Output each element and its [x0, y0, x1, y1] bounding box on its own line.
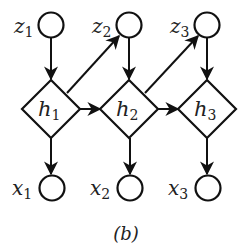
x-nodes: x1 x2 x3: [12, 176, 221, 203]
label-x1: x1: [12, 176, 32, 202]
label-x3: x3: [168, 176, 188, 202]
edge-h1-z2: [67, 36, 119, 93]
label-z2: z2: [91, 14, 111, 40]
label-z1: z1: [13, 14, 33, 40]
edge-h2-z3: [145, 36, 198, 93]
z-nodes: z1 z2 z3: [13, 13, 220, 41]
node-x2: [118, 176, 143, 201]
node-x1: [40, 176, 65, 201]
h-nodes: h1 h2 h3: [22, 80, 236, 138]
node-x3: [196, 176, 221, 201]
figure-caption: (b): [113, 223, 139, 244]
node-z1: [39, 13, 64, 38]
node-z3: [195, 13, 220, 38]
label-z3: z3: [169, 14, 189, 40]
label-x2: x2: [90, 176, 110, 202]
node-z2: [117, 13, 142, 38]
graphical-model-diagram: z1 z2 z3 h1 h2 h3 x1 x2 x3 (b): [0, 0, 248, 250]
